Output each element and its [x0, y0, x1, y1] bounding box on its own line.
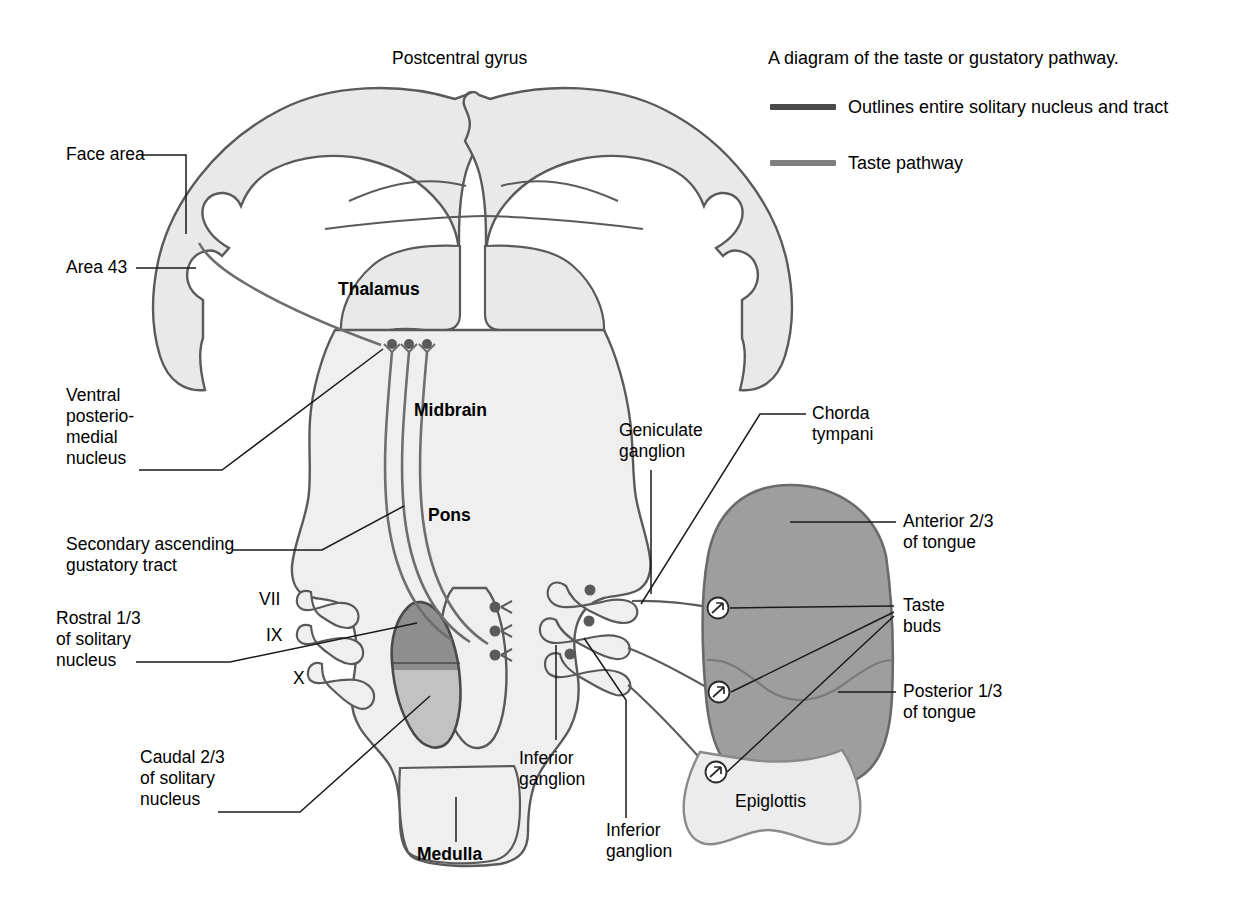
- label-posterior-tongue: Posterior 1/3 of tongue: [903, 681, 1002, 723]
- taste-bud-posterior: [709, 682, 730, 703]
- legend-item-solitary: Outlines entire solitary nucleus and tra…: [770, 96, 1178, 119]
- legend-swatch-taste-pathway: [770, 160, 836, 166]
- label-nerve-x: X: [293, 668, 305, 689]
- label-medulla: Medulla: [417, 844, 482, 865]
- taste-bud-anterior: [708, 598, 729, 619]
- page-title: Postcentral gyrus: [392, 48, 527, 69]
- label-rostral-third-solitary-nucleus: Rostral 1/3 of solitary nucleus: [56, 608, 141, 671]
- label-chorda-tympani: Chorda tympani: [812, 403, 873, 445]
- legend-item-taste-pathway: Taste pathway: [770, 152, 1178, 175]
- glossopharyngeal-fiber: [628, 648, 715, 692]
- label-face-area: Face area: [66, 144, 145, 165]
- label-caudal-two-thirds-solitary-nucleus: Caudal 2/3 of solitary nucleus: [140, 747, 225, 810]
- label-epiglottis: Epiglottis: [735, 791, 806, 812]
- commissure-line: [325, 216, 643, 229]
- solitary-synapse-dots: [490, 602, 501, 661]
- label-secondary-ascending-gustatory-tract: Secondary ascending gustatory tract: [66, 534, 234, 576]
- nerve-root-ix: [297, 625, 363, 664]
- label-nerve-vii: VII: [259, 589, 280, 610]
- taste-bud-epiglottic: [706, 762, 727, 783]
- label-anterior-tongue: Anterior 2/3 of tongue: [903, 511, 993, 553]
- label-area-43: Area 43: [66, 257, 127, 278]
- label-inferior-ganglion-1: Inferior ganglion: [519, 748, 585, 790]
- legend-swatch-solitary: [770, 104, 836, 110]
- vpm-synapse-dots: [387, 339, 432, 349]
- label-taste-buds: Taste buds: [903, 595, 945, 637]
- leader-inferior-ganglion-2: [584, 638, 626, 818]
- label-nerve-ix: IX: [266, 625, 283, 646]
- tongue-shape: [703, 485, 893, 788]
- figure-canvas: Postcentral gyrus A diagram of the taste…: [0, 0, 1257, 906]
- label-midbrain: Midbrain: [414, 400, 487, 421]
- label-inferior-ganglion-2: Inferior ganglion: [606, 820, 672, 862]
- label-ventral-posteromedial-nucleus: Ventral posterio- medial nucleus: [66, 385, 134, 469]
- label-geniculate-ganglion: Geniculate ganglion: [619, 420, 703, 462]
- label-thalamus: Thalamus: [338, 279, 420, 300]
- label-pons: Pons: [428, 505, 471, 526]
- legend-label-solitary: Outlines entire solitary nucleus and tra…: [848, 96, 1178, 119]
- figure-caption: A diagram of the taste or gustatory path…: [768, 48, 1119, 69]
- legend-label-taste-pathway: Taste pathway: [848, 152, 1178, 175]
